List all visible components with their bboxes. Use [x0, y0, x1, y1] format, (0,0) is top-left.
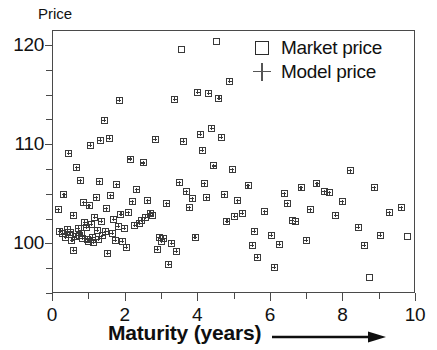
x-axis-title: Maturity (years) [108, 322, 261, 344]
data-point-marker [239, 210, 246, 217]
data-point-marker [398, 204, 405, 211]
data-point-marker [168, 240, 175, 247]
data-point-marker [101, 117, 108, 124]
data-point-marker [223, 218, 230, 225]
data-point-marker [116, 97, 123, 104]
data-point-marker [208, 125, 215, 132]
data-point-marker [129, 198, 136, 205]
data-point-marker [254, 254, 261, 261]
data-point-marker [117, 211, 124, 218]
data-point-marker [377, 232, 384, 239]
x-tick-major [342, 293, 343, 301]
data-point-marker [307, 206, 314, 213]
data-point-marker [339, 198, 346, 205]
data-point-marker [154, 246, 161, 253]
legend-item-model-price: Model price [252, 60, 412, 83]
data-point-marker [197, 131, 204, 138]
data-point-marker [107, 192, 114, 199]
data-point-marker [231, 213, 238, 220]
data-point-marker [221, 191, 228, 198]
x-tick-label: 0 [22, 305, 82, 324]
data-point-marker [298, 184, 305, 191]
data-point-marker [70, 212, 77, 219]
data-point-marker [313, 180, 320, 187]
y-tick-label: 110 [15, 134, 44, 153]
data-point-marker [203, 194, 210, 201]
data-point-marker [186, 204, 193, 211]
data-point-marker [386, 209, 393, 216]
data-point-marker [218, 134, 225, 141]
data-point-marker [152, 136, 159, 143]
x-tick-major [197, 293, 198, 301]
data-point-marker [109, 230, 116, 237]
y-axis-title: Price [38, 6, 72, 22]
x-tick-minor [88, 293, 89, 299]
data-point-marker [245, 182, 252, 189]
data-point-marker [226, 78, 233, 85]
data-point-marker [163, 200, 170, 207]
data-point-marker [292, 218, 299, 225]
data-point-marker [113, 181, 120, 188]
y-tick-label: 120 [13, 35, 44, 54]
data-point-marker [189, 195, 196, 202]
data-point-marker [98, 218, 105, 225]
x-tick-label: 8 [312, 305, 372, 324]
data-point-marker [251, 228, 258, 235]
data-point-marker [347, 167, 354, 174]
data-point-marker [210, 162, 217, 169]
data-point-marker [171, 96, 178, 103]
data-point-marker [77, 177, 84, 184]
data-point-marker [205, 90, 212, 97]
data-point-marker [96, 178, 103, 185]
x-tick-minor [161, 293, 162, 299]
data-point-marker [276, 241, 283, 248]
data-point-marker [234, 197, 241, 204]
data-point-marker [103, 205, 110, 212]
data-point-marker [97, 137, 104, 144]
data-point-marker [93, 194, 100, 201]
data-point-marker [106, 135, 113, 142]
data-point-marker [281, 190, 288, 197]
legend: Market price Model price [252, 36, 412, 84]
data-point-marker [160, 235, 167, 242]
data-point-marker [176, 179, 183, 186]
x-tick-minor [234, 293, 235, 299]
data-point-marker [213, 38, 220, 45]
data-point-marker [125, 209, 132, 216]
data-point-marker [366, 274, 373, 281]
data-point-marker [215, 95, 222, 102]
data-point-marker [87, 142, 94, 149]
plus-marker-icon [252, 62, 274, 82]
data-point-marker [332, 212, 339, 219]
data-point-marker [268, 232, 275, 239]
data-point-marker [60, 191, 67, 198]
y-tick-label: 100 [13, 233, 44, 252]
data-point-marker [249, 242, 256, 249]
data-point-marker [70, 247, 77, 254]
data-point-marker [194, 89, 201, 96]
legend-label-market-price: Market price [281, 38, 382, 58]
x-tick-major [125, 293, 126, 301]
data-point-marker [112, 237, 119, 244]
legend-label-model-price: Model price [281, 62, 376, 82]
data-point-marker [165, 261, 172, 268]
x-tick-major [52, 293, 53, 301]
data-point-marker [55, 206, 62, 213]
scatter-chart: Price 100110120 0246810 Market price Mod… [0, 0, 437, 350]
data-point-marker [178, 46, 185, 53]
data-point-marker [355, 224, 362, 231]
data-point-marker [229, 166, 236, 173]
data-point-marker [110, 216, 117, 223]
data-point-marker [261, 208, 268, 215]
data-point-marker [127, 156, 134, 163]
data-point-marker [284, 200, 291, 207]
data-point-marker [192, 234, 199, 241]
data-point-marker [133, 186, 140, 193]
data-point-marker [140, 159, 147, 166]
data-point-marker [121, 225, 128, 232]
square-marker-icon [252, 38, 274, 58]
arrow-right-icon [272, 330, 388, 344]
data-point-marker [404, 233, 411, 240]
data-point-marker [104, 250, 111, 257]
data-point-marker [199, 147, 206, 154]
